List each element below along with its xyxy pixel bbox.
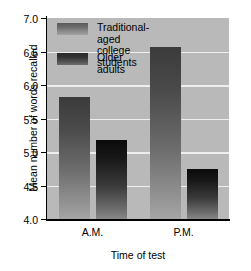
y-tick-label: 4.0 — [0, 214, 38, 226]
gridline — [47, 85, 229, 87]
legend-swatch-icon-series-1 — [57, 53, 88, 65]
legend-label-series-1: Older adults — [97, 52, 125, 75]
legend-swatch-icon-series-0 — [57, 23, 88, 35]
bar-pm-series-1 — [187, 169, 218, 219]
y-tick-mark — [41, 119, 46, 120]
bar-chart: Mean number of words recalled 4.04.55.05… — [0, 0, 251, 271]
y-tick-mark — [41, 219, 46, 220]
y-tick-label: 7.0 — [0, 13, 38, 25]
y-tick-label: 6.0 — [0, 80, 38, 92]
y-tick-mark — [41, 186, 46, 187]
x-axis-line — [46, 219, 230, 221]
x-tick-label: A.M. — [53, 226, 133, 238]
bar-am-series-1 — [96, 140, 127, 219]
y-tick-mark — [41, 152, 46, 153]
y-tick-label: 5.0 — [0, 147, 38, 159]
bar-pm-series-0 — [150, 47, 181, 219]
x-axis-title: Time of test — [47, 249, 229, 261]
y-tick-mark — [41, 52, 46, 53]
y-tick-label: 4.5 — [0, 181, 38, 193]
y-tick-mark — [41, 85, 46, 86]
x-tick-label: P.M. — [144, 226, 224, 238]
y-axis-line — [46, 16, 47, 221]
y-tick-label: 5.5 — [0, 114, 38, 126]
y-tick-mark — [41, 18, 46, 19]
bar-am-series-0 — [59, 97, 90, 219]
y-tick-label: 6.5 — [0, 47, 38, 59]
legend-item-older-adults: Older adults — [57, 52, 125, 75]
